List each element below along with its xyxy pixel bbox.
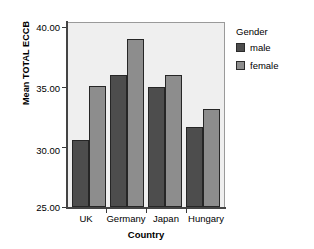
bar-groups (68, 23, 224, 207)
legend-label-male: male (250, 42, 271, 53)
y-tick-label-35: 35.00 (20, 84, 60, 94)
bar-group-hungary (186, 23, 220, 207)
legend-label-female: female (250, 60, 279, 71)
y-tick-label-30: 30.00 (20, 146, 60, 156)
bar-uk-female[interactable] (89, 86, 106, 207)
bar-uk-male[interactable] (72, 140, 89, 208)
bar-germany-female[interactable] (127, 39, 144, 207)
x-tick-label-germany: Germany (104, 213, 148, 224)
legend: Gender male female (236, 26, 312, 78)
legend-swatch-male-icon (236, 43, 245, 52)
plot-inner (68, 23, 224, 207)
bar-group-japan (148, 23, 182, 207)
y-axis-tick-labels: 40.00 35.00 30.00 25.00 (18, 0, 60, 249)
plot-area (67, 22, 225, 208)
bar-group-germany (110, 23, 144, 207)
bar-hungary-male[interactable] (186, 127, 203, 207)
y-axis-line (66, 21, 68, 209)
bar-germany-male[interactable] (110, 75, 127, 208)
y-tick-label-25: 25.00 (20, 203, 60, 213)
x-tick-label-japan: Japan (146, 213, 186, 224)
x-tick-label-uk: UK (66, 213, 106, 224)
x-axis-title: Country (67, 229, 225, 240)
legend-item-male[interactable]: male (236, 42, 312, 53)
y-tick-label-40: 40.00 (20, 23, 60, 33)
bar-chart: Mean TOTAL ECCB 40.00 35.00 30.00 25.00 (0, 0, 314, 249)
bar-japan-male[interactable] (148, 87, 165, 207)
legend-title: Gender (236, 26, 312, 37)
bar-group-uk (72, 23, 106, 207)
bar-hungary-female[interactable] (203, 109, 220, 207)
legend-swatch-female-icon (236, 61, 245, 70)
bar-japan-female[interactable] (165, 75, 182, 208)
x-tick-label-hungary: Hungary (184, 213, 228, 224)
legend-item-female[interactable]: female (236, 60, 312, 71)
